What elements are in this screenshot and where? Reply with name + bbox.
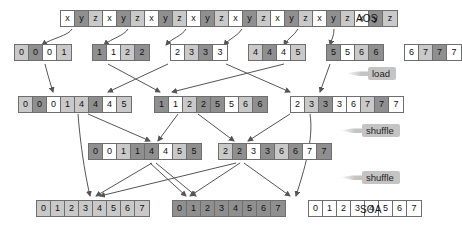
cell: y bbox=[117, 11, 131, 26]
cell: 2 bbox=[171, 45, 185, 60]
cell: 6 bbox=[257, 201, 271, 216]
cell: 0 bbox=[43, 45, 57, 60]
cell: 6 bbox=[121, 201, 135, 216]
cell: 1 bbox=[57, 45, 71, 60]
cell-group: 00014445 bbox=[18, 96, 132, 113]
cell: y bbox=[201, 11, 215, 26]
cell: x bbox=[187, 11, 201, 26]
cell-group: 1122 bbox=[92, 44, 150, 61]
cell: 1 bbox=[51, 201, 65, 216]
cell: 7 bbox=[271, 201, 285, 216]
cell: 0 bbox=[19, 97, 33, 112]
cell: 7 bbox=[389, 97, 403, 112]
cell: z bbox=[173, 11, 187, 26]
cell: 3 bbox=[215, 201, 229, 216]
cell-group: 6777 bbox=[404, 44, 462, 61]
cell: 3 bbox=[185, 45, 199, 60]
cell: 1 bbox=[187, 201, 201, 216]
cell: 4 bbox=[277, 45, 291, 60]
cell: x bbox=[313, 11, 327, 26]
cell: 5 bbox=[327, 45, 341, 60]
cell: 2 bbox=[65, 201, 79, 216]
cell-group: 5566 bbox=[326, 44, 384, 61]
cell: 4 bbox=[229, 201, 243, 216]
cell: 0 bbox=[173, 201, 187, 216]
cell: 2 bbox=[219, 144, 233, 159]
cell-group: 23336777 bbox=[290, 96, 404, 113]
cell: 1 bbox=[93, 45, 107, 60]
cell: 5 bbox=[341, 45, 355, 60]
cell: 2 bbox=[197, 97, 211, 112]
cell: 4 bbox=[263, 45, 277, 60]
cell: 3 bbox=[79, 201, 93, 216]
cell: 0 bbox=[47, 97, 61, 112]
cell: 5 bbox=[211, 97, 225, 112]
shuffle-2-row: 0011445522336677 bbox=[88, 143, 332, 160]
cell: 7 bbox=[419, 45, 433, 60]
cell: z bbox=[257, 11, 271, 26]
cell: 7 bbox=[135, 201, 149, 216]
cell: 3 bbox=[333, 97, 347, 112]
cell: x bbox=[271, 11, 285, 26]
aos-row: xyzxyzxyzxyzxyzxyzxyzxyz bbox=[60, 10, 398, 27]
cell-group: xyzxyzxyzxyzxyzxyzxyzxyz bbox=[60, 10, 398, 27]
cell: 4 bbox=[103, 97, 117, 112]
cell: z bbox=[89, 11, 103, 26]
cell: z bbox=[383, 11, 397, 26]
cell: 6 bbox=[347, 97, 361, 112]
loaded-row: 000111222333444555666777 bbox=[14, 44, 462, 61]
cell: 7 bbox=[317, 144, 331, 159]
cell-group: 01234567 bbox=[36, 200, 150, 217]
cell-group: 22336677 bbox=[218, 143, 332, 160]
cell-group: 00114455 bbox=[88, 143, 202, 160]
cell: z bbox=[341, 11, 355, 26]
cell: x bbox=[61, 11, 75, 26]
cell: y bbox=[285, 11, 299, 26]
cell: 4 bbox=[145, 144, 159, 159]
cell: 7 bbox=[375, 97, 389, 112]
cell: 5 bbox=[173, 144, 187, 159]
cell: 4 bbox=[249, 45, 263, 60]
cell: 0 bbox=[29, 45, 43, 60]
cell: 7 bbox=[361, 97, 375, 112]
cell: 5 bbox=[243, 201, 257, 216]
cell: 6 bbox=[369, 45, 383, 60]
cell: 7 bbox=[407, 201, 421, 216]
cell: x bbox=[103, 11, 117, 26]
cell: 6 bbox=[275, 144, 289, 159]
cell: 3 bbox=[305, 97, 319, 112]
cell-group: 0001 bbox=[14, 44, 72, 61]
cell: x bbox=[229, 11, 243, 26]
cell: x bbox=[145, 11, 159, 26]
shuffle-tag-1: shuffle bbox=[362, 124, 400, 137]
cell: 4 bbox=[159, 144, 173, 159]
cell: 6 bbox=[253, 97, 267, 112]
cell: 6 bbox=[239, 97, 253, 112]
cell-group: 11225566 bbox=[154, 96, 268, 113]
cell: 6 bbox=[393, 201, 407, 216]
cell: 5 bbox=[225, 97, 239, 112]
cell: 2 bbox=[201, 201, 215, 216]
cell: 4 bbox=[75, 97, 89, 112]
cell: 3 bbox=[213, 45, 227, 60]
cell: 1 bbox=[131, 144, 145, 159]
cell: 5 bbox=[187, 144, 201, 159]
cell: 1 bbox=[323, 201, 337, 216]
cell: z bbox=[299, 11, 313, 26]
cell-group: 01234567 bbox=[172, 200, 286, 217]
cell: y bbox=[159, 11, 173, 26]
cell: 2 bbox=[337, 201, 351, 216]
cell: 6 bbox=[405, 45, 419, 60]
load-tag: load bbox=[368, 67, 396, 80]
cell: 4 bbox=[89, 97, 103, 112]
cell: 1 bbox=[107, 45, 121, 60]
cell: 2 bbox=[183, 97, 197, 112]
cell: 3 bbox=[319, 97, 333, 112]
cell-group: 2333 bbox=[170, 44, 228, 61]
cell: 7 bbox=[303, 144, 317, 159]
cell: 2 bbox=[135, 45, 149, 60]
cell: 0 bbox=[37, 201, 51, 216]
cell: y bbox=[75, 11, 89, 26]
cell: 5 bbox=[117, 97, 131, 112]
cell: 6 bbox=[289, 144, 303, 159]
